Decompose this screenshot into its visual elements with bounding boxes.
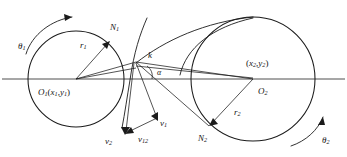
theta2-arrow-head [318, 117, 325, 125]
o2-coordinate-label: (x2,y2) [246, 58, 268, 68]
v1-arrow-head [151, 112, 158, 121]
k-to-n2-normal-line [136, 62, 209, 126]
r1-label: r1 [80, 40, 87, 50]
v2-label: v2 [105, 136, 112, 146]
theta1-label: θ1 [18, 41, 26, 51]
r2-arrow-head [209, 118, 218, 126]
k-to-o2-line-secondary [136, 66, 253, 78]
r2-label: r2 [234, 107, 241, 117]
n1-label: N1 [109, 22, 119, 32]
theta2-label: θ2 [322, 135, 330, 145]
alpha-label: α [157, 68, 162, 77]
o1-to-k-line [76, 62, 136, 79]
upper-connecting-arc [136, 17, 253, 63]
figure-canvas: θ1 θ2 r1 r2 N1 N2 k α O1 [0, 0, 347, 157]
upper-connecting-arc-secondary [180, 18, 253, 75]
theta1-arrow-head [64, 14, 72, 21]
tangent-curve-through-k [122, 18, 147, 128]
o2-label: O2 [258, 86, 268, 96]
o1-coordinate-label: O1(x1,y1) [38, 87, 70, 97]
o1-to-k-line-secondary [76, 68, 136, 79]
theta2-rotation-arc [291, 117, 323, 146]
v1-label: v1 [160, 118, 167, 128]
v12-label: v12 [138, 134, 148, 144]
n2-label: N2 [197, 133, 207, 143]
geometry-diagram: θ1 θ2 r1 r2 N1 N2 k α O1 [0, 0, 347, 157]
theta1-rotation-arc [26, 17, 72, 54]
r2-radius-arrow-line [211, 79, 253, 124]
